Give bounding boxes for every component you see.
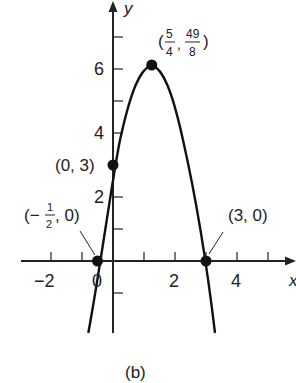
x-axis-label: x	[288, 271, 296, 290]
x-axis-arrow-icon	[285, 257, 296, 266]
y-intercept-point	[108, 160, 119, 171]
y-axis-arrow-icon	[109, 1, 118, 12]
root-right-label: (3, 0)	[228, 206, 268, 225]
svg-text:49: 49	[186, 27, 200, 41]
svg-text:(: (	[158, 32, 164, 51]
x-tick-label-2: 2	[169, 271, 179, 291]
svg-text:,: ,	[177, 36, 181, 52]
y-axis-label: y	[123, 0, 134, 18]
x-tick-label-4: 4	[231, 271, 241, 291]
y-tick-label-6: 6	[94, 59, 104, 79]
parabola-chart: y x −2 0 2 4 2 4 6 (− 1 2 , 0) (0, 3) ( …	[0, 0, 296, 383]
vertex-label: ( 5 4 , 49 8 )	[158, 27, 209, 59]
root-right-point	[201, 256, 212, 267]
x-tick-label-neg2: −2	[34, 271, 55, 291]
x-ticks	[51, 252, 268, 261]
svg-text:, 0): , 0)	[55, 206, 80, 225]
y-tick-label-4: 4	[94, 123, 104, 143]
svg-text:4: 4	[166, 45, 173, 59]
svg-text:(−: (−	[24, 206, 40, 225]
root-right-leader	[209, 232, 223, 254]
vertex-point	[146, 60, 157, 71]
root-left-point	[92, 256, 103, 267]
svg-text:1: 1	[47, 201, 53, 213]
figure-caption: (b)	[125, 363, 146, 382]
root-left-leader	[80, 231, 95, 255]
svg-text:): )	[203, 32, 209, 51]
x-tick-label-0: 0	[92, 271, 102, 291]
parabola-curve	[88, 65, 215, 333]
svg-text:2: 2	[46, 218, 52, 230]
y-intercept-label: (0, 3)	[55, 156, 95, 175]
y-tick-label-2: 2	[94, 187, 104, 207]
svg-text:8: 8	[189, 45, 196, 59]
svg-text:5: 5	[166, 27, 173, 41]
root-left-label: (− 1 2 , 0)	[24, 201, 80, 230]
